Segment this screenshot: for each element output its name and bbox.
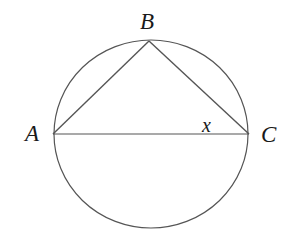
angle-label-x: x	[202, 115, 211, 135]
vertex-label-B: B	[140, 10, 154, 33]
segment-BC	[149, 41, 249, 134]
segment-AB	[53, 41, 149, 134]
circle-triangle-diagram	[0, 0, 292, 239]
vertex-label-A: A	[25, 122, 39, 145]
vertex-label-C: C	[261, 123, 276, 146]
